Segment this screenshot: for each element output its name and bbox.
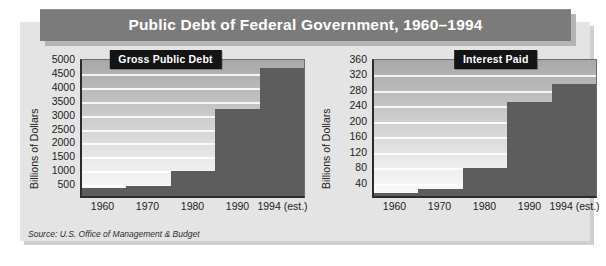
x-tick-label: 1990 <box>518 200 541 212</box>
x-tick-label: 1970 <box>428 200 451 212</box>
bar-series-right <box>374 60 596 196</box>
plot-area-right: Interest Paid <box>372 59 597 198</box>
x-tick-label: 1994 (est.) <box>549 200 599 212</box>
bar <box>507 102 552 196</box>
y-tick-label: 320 <box>349 69 367 80</box>
y-tick-label: 1000 <box>52 165 75 176</box>
y-tick-label: 160 <box>349 131 367 142</box>
y-tick-label: 1500 <box>52 151 75 162</box>
bar <box>418 189 463 196</box>
y-tick-label: 2000 <box>52 137 75 148</box>
page-title: Public Debt of Federal Government, 1960–… <box>128 16 482 34</box>
chart-title-plaque-right: Interest Paid <box>454 50 538 69</box>
bar <box>126 186 171 196</box>
chart-interest-paid: Billions of Dollars 40801201602002402803… <box>318 56 601 221</box>
bar <box>374 193 419 196</box>
y-axis-ticks-right: 4080120160200240280320360 <box>334 59 370 198</box>
y-tick-label: 40 <box>355 177 367 188</box>
y-tick-label: 4000 <box>52 82 75 93</box>
y-axis-label-right: Billions of Dollars <box>318 94 334 204</box>
plot-background-right <box>372 59 597 198</box>
x-tick-label: 1960 <box>91 200 114 212</box>
x-tick-label: 1960 <box>383 200 406 212</box>
y-tick-label: 3500 <box>52 95 75 106</box>
bar <box>82 188 127 196</box>
bar <box>463 168 508 196</box>
title-banner: Public Debt of Federal Government, 1960–… <box>40 9 571 41</box>
y-tick-label: 5000 <box>52 54 75 65</box>
y-tick-label: 200 <box>349 116 367 127</box>
x-tick-label: 1970 <box>136 200 159 212</box>
y-tick-label: 3000 <box>52 109 75 120</box>
x-axis-ticks-left: 19601970198019901994 (est.) <box>80 200 305 216</box>
source-note: Source: U.S. Office of Management & Budg… <box>28 229 200 239</box>
plot-area-left: Gross Public Debt <box>80 59 305 198</box>
y-tick-label: 240 <box>349 100 367 111</box>
chart-gross-public-debt: Billions of Dollars 50010001500200025003… <box>26 56 309 221</box>
y-tick-label: 500 <box>57 179 75 190</box>
y-tick-label: 80 <box>355 162 367 173</box>
chart-title-plaque-left: Gross Public Debt <box>109 50 221 69</box>
y-tick-label: 360 <box>349 54 367 65</box>
y-axis-ticks-left: 500100015002000250030003500400045005000 <box>42 59 78 198</box>
bar <box>171 171 216 196</box>
y-tick-label: 2500 <box>52 123 75 134</box>
bar <box>260 68 304 196</box>
figure-root: Public Debt of Federal Government, 1960–… <box>0 0 606 266</box>
x-tick-label: 1980 <box>181 200 204 212</box>
x-axis-ticks-right: 19601970198019901994 (est.) <box>372 200 597 216</box>
x-tick-label: 1994 (est.) <box>257 200 307 212</box>
plot-background-left <box>80 59 305 198</box>
y-tick-label: 4500 <box>52 68 75 79</box>
y-tick-label: 280 <box>349 85 367 96</box>
y-tick-label: 120 <box>349 146 367 157</box>
y-axis-label-left: Billions of Dollars <box>26 94 42 204</box>
bar <box>215 109 260 196</box>
x-tick-label: 1980 <box>473 200 496 212</box>
bar <box>552 84 596 196</box>
x-tick-label: 1990 <box>226 200 249 212</box>
bar-series-left <box>82 60 304 196</box>
